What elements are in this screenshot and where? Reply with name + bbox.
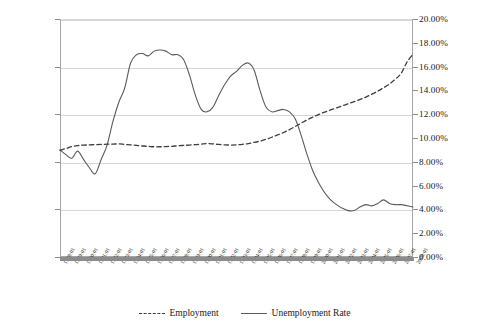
y-axis-right-tick-label: 10.00% [419, 133, 448, 143]
legend-swatch-solid-icon [241, 313, 267, 314]
y-axis-right-tick-label: 8.00% [419, 157, 443, 167]
y-axis-right-tick-mark [413, 233, 418, 234]
y-axis-right-tick-mark [413, 67, 418, 68]
y-axis-right-tick-label: 16.00% [419, 62, 448, 72]
x-axis-tick-mark [413, 257, 414, 261]
y-axis-right-tick-mark [413, 209, 418, 210]
y-axis-right-tick-mark [413, 186, 418, 187]
y-axis-right-tick-label: 18.00% [419, 38, 448, 48]
legend-item-unemployment-rate: Unemployment Rate [241, 308, 351, 318]
y-axis-right-tick-mark [413, 114, 418, 115]
y-axis-right-tick-label: 20.00% [419, 14, 448, 24]
legend-item-employment: Employment [139, 308, 219, 318]
y-axis-right-tick-label: 14.00% [419, 85, 448, 95]
y-axis-right-tick-mark [413, 162, 418, 163]
legend-label-employment: Employment [170, 308, 219, 318]
y-axis-right-tick-mark [413, 138, 418, 139]
y-axis-right-tick-mark [413, 43, 418, 44]
legend-swatch-dashed-icon [139, 313, 165, 314]
legend-label-unemployment-rate: Unemployment Rate [272, 308, 351, 318]
chart-container: 500,0001,000,0001,500,0002,000,0002,500,… [0, 0, 489, 329]
y-axis-right-tick-label: 2.00% [419, 228, 443, 238]
y-axis-right-tick-mark [413, 90, 418, 91]
series-lines [60, 19, 413, 257]
line-employment [60, 54, 413, 150]
y-axis-right-tick-label: 12.00% [419, 109, 448, 119]
y-axis-right-tick-label: 4.00% [419, 204, 443, 214]
chart-legend: Employment Unemployment Rate [0, 303, 489, 323]
y-axis-right-tick-mark [413, 19, 418, 20]
y-axis-right-tick-label: 6.00% [419, 181, 443, 191]
line-unemployment-rate [60, 50, 413, 211]
